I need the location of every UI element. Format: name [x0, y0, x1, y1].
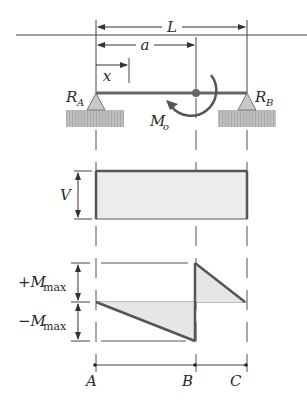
position-label: x [103, 67, 112, 85]
point-a-label: A [84, 372, 97, 390]
moment-point [192, 89, 200, 97]
left-reaction-sub: A [76, 97, 84, 108]
positive-moment-sub: max [43, 281, 67, 294]
right-ground [218, 110, 276, 127]
left-support-icon [87, 93, 105, 110]
right-support-icon [238, 93, 256, 110]
point-c-label: C [230, 372, 242, 390]
applied-moment-sub: o [163, 121, 169, 132]
beam-diagram: L a x R A R B M o [0, 0, 307, 409]
shear-label: V [60, 186, 73, 204]
moment-position-label: a [141, 36, 150, 54]
shear-diagram: V [60, 171, 247, 219]
right-reaction-sub: B [265, 97, 273, 108]
position-dimension: x [96, 58, 129, 85]
length-label: L [166, 18, 177, 36]
left-ground [66, 110, 124, 127]
left-reaction-label: R [65, 88, 77, 106]
moment-arrowhead-icon [166, 100, 178, 110]
moment-diagram: +M max −M max [18, 263, 247, 341]
point-b-label: B [181, 372, 193, 390]
negative-moment-sub: max [43, 320, 67, 333]
position-axis: A B C [84, 363, 248, 390]
right-reaction-label: R [254, 88, 266, 106]
length-dimension: L [96, 18, 247, 93]
